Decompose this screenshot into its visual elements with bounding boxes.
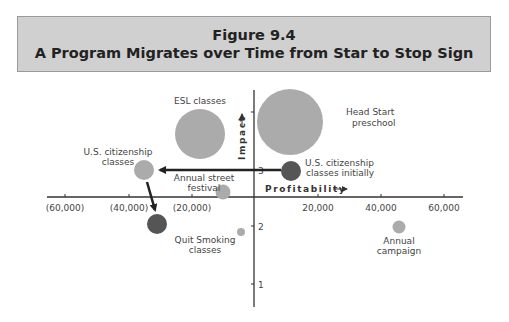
label-quit-smoking: Quit Smoking [175,235,236,245]
bubble-quit-smoking [237,228,245,236]
x-tick-label: 20,000 [302,203,334,213]
y-tick-label: 2 [258,222,264,232]
label-annual-campaign: Annual [383,236,414,246]
bubble-citizenship-initial [281,161,301,181]
bubble-esl-classes [175,109,225,159]
label-annual-campaign: campaign [377,246,421,256]
bubble-head-start-preschool [257,89,323,155]
x-tick-label: (60,000) [46,203,85,213]
label-citizenship-classes: classes [102,157,135,167]
label-annual-street-festival: Annual street [174,173,235,183]
label-quit-smoking: classes [189,245,222,255]
y-tick-label: 1 [258,280,264,290]
label-annual-street-festival: festival [188,183,221,193]
x-tick-label: (20,000) [173,203,212,213]
label-esl-classes: ESL classes [174,96,226,106]
label-head-start: Head Start [346,107,395,117]
bubble-citizenship-stop [147,214,167,234]
label-citizenship-initial: U.S. citizenship [305,158,374,168]
bubble-chart: (60,000) (40,000) (20,000) 20,000 40,000… [0,0,509,322]
x-tick-label: 40,000 [365,203,397,213]
label-citizenship-initial: classes initially [306,168,375,178]
label-head-start: preschool [352,118,396,128]
x-tick-label: (40,000) [110,203,149,213]
label-citizenship-classes: U.S. citizenship [84,147,153,157]
x-tick-label: 60,000 [428,203,460,213]
bubble-annual-campaign [393,221,406,234]
bubble-citizenship-classes [134,160,154,180]
